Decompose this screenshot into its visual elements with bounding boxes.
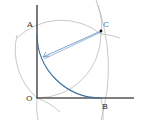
label-c: C [103, 20, 109, 29]
label-o: O [26, 94, 33, 103]
construction-arc-centered-b [15, 35, 38, 120]
construction-arc-centered-a [37, 5, 102, 112]
label-b: B [102, 102, 108, 111]
arrow-line-c [43, 31, 101, 57]
label-a: A [26, 20, 33, 29]
quarter-arc-ab [37, 34, 101, 98]
geometry-diagram: A C O B [0, 0, 144, 125]
point-c [100, 30, 103, 33]
